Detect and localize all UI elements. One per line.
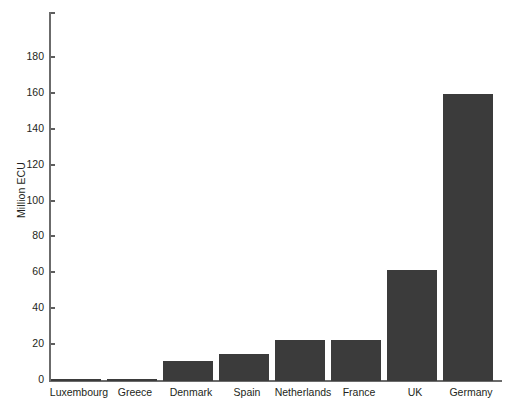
- bar-slot: [331, 12, 381, 381]
- bar-slot: [163, 12, 213, 381]
- bar-slot: [443, 12, 493, 381]
- y-axis-tick-label: 160: [0, 87, 44, 98]
- bar-chart: Million ECU 020406080100120140160180 Lux…: [0, 0, 522, 414]
- bar[interactable]: [163, 361, 213, 381]
- x-axis-category-label: Germany: [421, 387, 521, 399]
- bar[interactable]: [275, 340, 325, 381]
- y-axis-tick-label: 0: [0, 374, 44, 385]
- bar[interactable]: [51, 379, 101, 381]
- bar-slot: [107, 12, 157, 381]
- y-axis-tick-label: 100: [0, 195, 44, 206]
- plot-area: [50, 12, 502, 381]
- y-axis-tick-label: 40: [0, 302, 44, 313]
- bar[interactable]: [331, 340, 381, 381]
- bar-slot: [387, 12, 437, 381]
- bar-slot: [219, 12, 269, 381]
- bar[interactable]: [219, 354, 269, 381]
- y-axis-tick-label: 140: [0, 123, 44, 134]
- bar[interactable]: [387, 270, 437, 381]
- bar-slot: [275, 12, 325, 381]
- bar-slot: [51, 12, 101, 381]
- bar[interactable]: [107, 379, 157, 381]
- y-axis-tick-label: 180: [0, 51, 44, 62]
- y-axis-tick-label: 60: [0, 266, 44, 277]
- y-axis-tick-label: 80: [0, 230, 44, 241]
- y-axis-title-text: Million ECU: [15, 162, 27, 218]
- y-axis-tick-label: 120: [0, 159, 44, 170]
- bar[interactable]: [443, 94, 493, 381]
- y-axis-tick-label: 20: [0, 338, 44, 349]
